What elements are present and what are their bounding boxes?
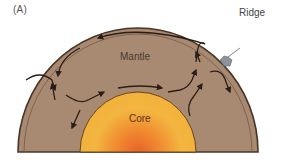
ridge-leader-line	[228, 48, 240, 57]
panel-label: (A)	[13, 4, 27, 15]
mantle-convection-diagram: (A) Ridge Mantle Core	[0, 0, 282, 160]
mantle-label: Mantle	[120, 51, 150, 62]
ridge	[220, 48, 240, 66]
ridge-label: Ridge	[239, 7, 265, 18]
core-label: Core	[129, 113, 151, 124]
cross-section-graphic	[0, 0, 282, 160]
